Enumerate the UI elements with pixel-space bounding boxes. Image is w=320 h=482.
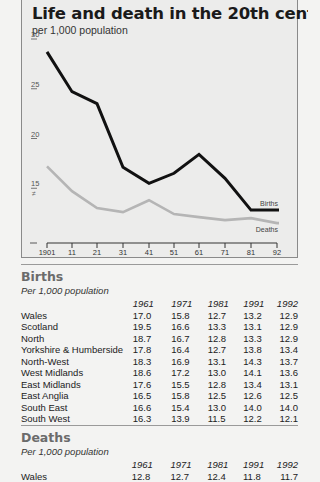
rate-value: 13.1 <box>208 356 244 368</box>
table-row: East Anglia16.515.812.512.612.5 <box>21 390 298 402</box>
column-header: 1991 <box>243 298 277 310</box>
y-tick-label: 30 <box>31 30 39 39</box>
x-tick-label: 21 <box>93 248 101 257</box>
deaths-legend-label: Deaths <box>256 226 279 233</box>
region-label: North-West <box>21 356 133 368</box>
column-header: 1961 <box>133 298 171 310</box>
rate-value: 16.3 <box>133 413 171 425</box>
rate-value: 12.2 <box>243 413 277 425</box>
rate-value: 16.4 <box>171 344 208 356</box>
rate-value: 16.6 <box>133 402 171 414</box>
rate-value: 11.7 <box>277 471 298 482</box>
rate-value: 13.0 <box>208 367 244 379</box>
rate-value: 15.4 <box>171 402 208 414</box>
line-chart: 30252015≠1901112131415161718192BirthsDea… <box>22 0 299 258</box>
rate-value: 15.8 <box>171 390 208 402</box>
rate-value: 17.6 <box>133 379 171 391</box>
chart-panel: Life and death in the 20th century per 1… <box>21 0 298 258</box>
births-title: Births <box>21 269 298 284</box>
x-tick-label: 51 <box>170 248 178 257</box>
rate-value: 13.7 <box>277 356 298 368</box>
deaths-title: Deaths <box>21 430 298 445</box>
y-tick-label: 25 <box>31 80 39 89</box>
rate-value: 16.6 <box>171 321 208 333</box>
rate-value: 12.9 <box>277 333 298 345</box>
rate-value: 13.3 <box>208 321 244 333</box>
region-label: North <box>21 333 133 345</box>
rate-value: 12.8 <box>208 333 244 345</box>
x-tick-label: 11 <box>68 248 76 257</box>
deaths-line <box>47 166 279 223</box>
column-header: 1991 <box>243 459 277 471</box>
column-header: 1961 <box>132 459 171 471</box>
rate-value: 12.9 <box>277 310 298 322</box>
region-label: South West <box>21 413 133 425</box>
rate-value: 11.5 <box>208 413 244 425</box>
deaths-table: 1961 1971 1981 1991 1992 Wales12.812.712… <box>21 459 298 482</box>
rate-value: 12.8 <box>208 379 244 391</box>
region-label: West Midlands <box>21 367 133 379</box>
rate-value: 12.1 <box>277 413 298 425</box>
rate-value: 18.6 <box>133 367 171 379</box>
table-header-row: 1961 1971 1981 1991 1992 <box>21 459 298 471</box>
column-header: 1992 <box>277 459 298 471</box>
rate-value: 15.5 <box>171 379 208 391</box>
axis-break-icon: ≠ <box>32 190 36 197</box>
rate-value: 13.8 <box>243 344 277 356</box>
table-row: West Midlands18.617.213.014.113.6 <box>21 367 298 379</box>
x-tick-label: 92 <box>273 248 281 257</box>
divider <box>21 264 298 265</box>
rate-value: 14.3 <box>243 356 277 368</box>
rate-value: 18.7 <box>133 333 171 345</box>
rate-value: 12.7 <box>208 344 244 356</box>
rate-value: 12.9 <box>277 321 298 333</box>
column-header: 1971 <box>170 459 207 471</box>
rate-value: 12.6 <box>243 390 277 402</box>
x-tick-label: 1901 <box>39 248 56 257</box>
rate-value: 13.0 <box>208 402 244 414</box>
rate-value: 12.5 <box>277 390 298 402</box>
table-row: Yorkshire & Humberside17.816.412.713.813… <box>21 344 298 356</box>
rate-value: 13.4 <box>243 379 277 391</box>
x-tick-label: 61 <box>195 248 203 257</box>
x-tick-label: 41 <box>145 248 153 257</box>
rate-value: 13.1 <box>243 321 277 333</box>
rate-value: 13.4 <box>277 344 298 356</box>
x-tick-label: 81 <box>247 248 255 257</box>
births-section: Births Per 1,000 population 1961 1971 19… <box>21 269 298 425</box>
rate-value: 17.0 <box>133 310 171 322</box>
rate-value: 14.0 <box>277 402 298 414</box>
table-row: North18.716.712.813.312.9 <box>21 333 298 345</box>
column-header: 1981 <box>208 298 244 310</box>
rate-value: 16.9 <box>171 356 208 368</box>
region-label: Wales <box>21 310 133 322</box>
table-row: East Midlands17.615.512.813.413.1 <box>21 379 298 391</box>
column-header: 1971 <box>171 298 208 310</box>
rate-value: 12.7 <box>170 471 207 482</box>
rate-value: 17.8 <box>133 344 171 356</box>
region-label: East Anglia <box>21 390 133 402</box>
table-row: North-West18.316.913.114.313.7 <box>21 356 298 368</box>
rate-value: 13.2 <box>243 310 277 322</box>
x-tick-label: 71 <box>221 248 229 257</box>
y-tick-label: 20 <box>31 130 39 139</box>
region-label: Yorkshire & Humberside <box>21 344 133 356</box>
rate-value: 13.6 <box>277 367 298 379</box>
deaths-section: Deaths Per 1,000 population 1961 1971 19… <box>21 430 298 482</box>
table-row: Scotland19.516.613.313.112.9 <box>21 321 298 333</box>
divider <box>21 425 298 426</box>
rate-value: 12.5 <box>208 390 244 402</box>
rate-value: 14.0 <box>243 402 277 414</box>
table-row: Wales12.812.712.411.811.7 <box>21 471 298 482</box>
rate-value: 12.4 <box>207 471 243 482</box>
births-table: 1961 1971 1981 1991 1992 Wales17.015.812… <box>21 298 298 425</box>
rate-value: 12.8 <box>132 471 171 482</box>
rate-value: 15.8 <box>171 310 208 322</box>
births-line <box>47 52 279 210</box>
rate-value: 17.2 <box>171 367 208 379</box>
rate-value: 12.7 <box>208 310 244 322</box>
rate-value: 18.3 <box>133 356 171 368</box>
region-label: East Midlands <box>21 379 133 391</box>
region-label: South East <box>21 402 133 414</box>
rate-value: 16.5 <box>133 390 171 402</box>
